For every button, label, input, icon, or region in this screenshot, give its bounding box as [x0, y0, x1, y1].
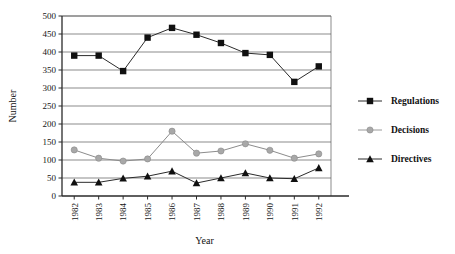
data-point-marker	[242, 50, 248, 56]
data-point-marker	[144, 34, 150, 40]
data-series-group	[70, 25, 322, 187]
legend-item-decisions[interactable]: Decisions	[358, 125, 429, 135]
data-point-marker	[291, 79, 297, 85]
chart-figure: 050100150200250300350400450500 198219831…	[0, 0, 455, 254]
y-tick-label: 450	[43, 29, 57, 39]
data-point-marker	[120, 158, 126, 164]
y-tick-label: 400	[43, 47, 57, 57]
data-point-marker	[218, 148, 224, 154]
legend-label: Directives	[391, 154, 432, 164]
data-point-marker	[169, 25, 175, 31]
x-tick-label: 1988	[216, 203, 226, 222]
data-point-marker	[95, 52, 101, 58]
x-axis-title: Year	[195, 235, 214, 246]
y-tick-label: 500	[43, 11, 57, 21]
y-tick-label: 350	[43, 65, 57, 75]
data-point-marker	[316, 63, 322, 69]
legend-item-directives[interactable]: Directives	[358, 154, 432, 164]
data-point-marker	[218, 40, 224, 46]
data-point-marker	[71, 147, 77, 153]
data-point-marker	[120, 68, 126, 74]
x-tick-label: 1989	[241, 203, 251, 222]
x-tick-label: 1985	[143, 203, 153, 222]
data-point-marker	[168, 167, 176, 174]
x-tick-label: 1991	[290, 203, 300, 221]
data-point-marker	[144, 156, 150, 162]
y-tick-label: 150	[43, 137, 57, 147]
series-line	[74, 131, 319, 161]
x-tick-label: 1986	[167, 203, 177, 222]
x-axis-ticks-group: 1982198319841985198619871988198919901991…	[70, 196, 325, 221]
data-point-marker	[96, 155, 102, 161]
y-tick-label: 300	[43, 83, 57, 93]
y-tick-label: 200	[43, 119, 57, 129]
data-point-marker	[291, 155, 297, 161]
data-point-marker	[193, 32, 199, 38]
data-point-marker	[169, 128, 175, 134]
data-point-marker	[316, 151, 322, 157]
data-point-marker	[71, 52, 77, 58]
x-tick-label: 1983	[94, 203, 104, 222]
gridlines-group	[62, 16, 331, 196]
x-tick-label: 1990	[265, 203, 275, 222]
x-tick-label: 1984	[118, 203, 128, 222]
legend-marker-icon	[367, 98, 373, 104]
legend-label: Regulations	[391, 96, 439, 106]
data-point-marker	[267, 52, 273, 58]
y-axis-title: Number	[7, 89, 18, 122]
legend-label: Decisions	[391, 125, 429, 135]
x-tick-label: 1982	[70, 203, 80, 221]
legend-marker-icon	[367, 127, 373, 133]
series-directives	[70, 164, 322, 186]
y-tick-label: 0	[52, 191, 57, 201]
series-decisions	[71, 128, 322, 164]
data-point-marker	[267, 147, 273, 153]
y-tick-label: 100	[43, 155, 57, 165]
line-chart: 050100150200250300350400450500 198219831…	[0, 0, 455, 254]
x-tick-label: 1987	[192, 203, 202, 222]
y-tick-label: 50	[47, 173, 57, 183]
y-axis-ticks-group: 050100150200250300350400450500	[43, 11, 63, 201]
legend: RegulationsDecisionsDirectives	[358, 96, 439, 164]
data-point-marker	[193, 150, 199, 156]
legend-item-regulations[interactable]: Regulations	[358, 96, 439, 106]
x-tick-label: 1992	[314, 203, 324, 221]
y-tick-label: 250	[43, 101, 57, 111]
data-point-marker	[315, 164, 323, 171]
data-point-marker	[242, 169, 250, 176]
data-point-marker	[242, 141, 248, 147]
